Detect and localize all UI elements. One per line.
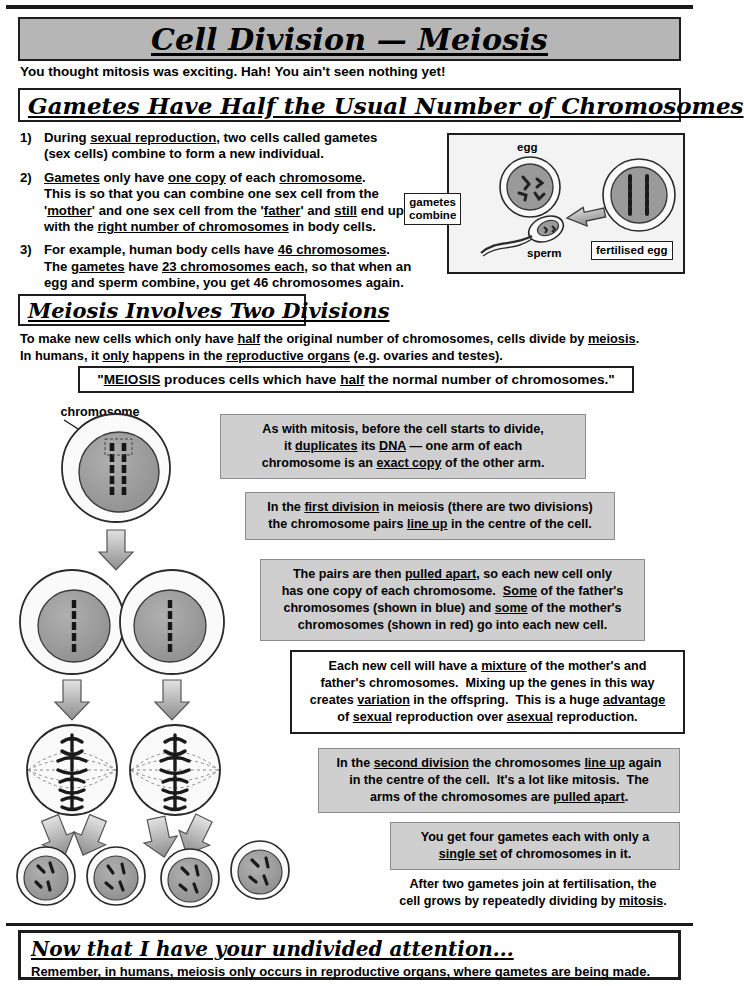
gamete-cell-4: [231, 841, 289, 899]
meiosis-quote: "MEIOSIS produces cells which have half …: [97, 372, 615, 387]
intro-paragraph: To make new cells which only have half t…: [20, 331, 685, 364]
gamete-cell-3: [161, 849, 219, 907]
gametes-combine-line1: gametes: [409, 196, 456, 208]
numbered-list: 1) During sexual reproduction, two cells…: [20, 130, 450, 299]
callout-second-division: In the second division the chromosomes l…: [318, 748, 680, 813]
top-rule: [6, 5, 693, 9]
fertilised-egg-cell: [603, 159, 675, 231]
list-item: 1) During sexual reproduction, two cells…: [20, 130, 450, 163]
page-title: Cell Division — Meiosis: [151, 22, 548, 57]
list-item-number: 2): [20, 170, 44, 236]
callout-first-division: In the first division in meiosis (there …: [245, 492, 615, 540]
callout-pulled-apart: The pairs are then pulled apart, so each…: [260, 559, 645, 641]
callout-duplication: As with mitosis, before the cell starts …: [220, 414, 586, 479]
page-title-box: Cell Division — Meiosis: [18, 17, 681, 61]
division-arrow-2-right: [155, 680, 189, 720]
second-division-cell-left: [27, 725, 117, 815]
list-item-text: Gametes only have one copy of each chrom…: [44, 170, 450, 236]
callout-after-fertilisation: After two gametes join at fertilisation,…: [378, 876, 688, 910]
list-item-text: For example, human body cells have 46 ch…: [44, 242, 450, 291]
section-heading-gametes-text: Gametes Have Half the Usual Number of Ch…: [28, 92, 744, 119]
first-division-cells: [20, 567, 224, 674]
gamete-cell-2: [87, 847, 145, 905]
footer-text: Remember, in humans, meiosis only occurs…: [31, 964, 668, 979]
list-item-text: During sexual reproduction, two cells ca…: [44, 130, 450, 163]
list-item-number: 1): [20, 130, 44, 163]
second-division-cell-right: [130, 725, 220, 815]
bottom-rule: [6, 923, 693, 926]
gametes-combine-line2: combine: [409, 209, 456, 221]
footer-box: Now that I have your undivided attention…: [18, 930, 681, 980]
list-item-number: 3): [20, 242, 44, 291]
section-heading-gametes: Gametes Have Half the Usual Number of Ch…: [18, 88, 681, 122]
division-arrow-1: [99, 530, 133, 570]
egg-label: egg: [517, 141, 537, 153]
intro-line: You thought mitosis was exciting. Hah! Y…: [20, 64, 446, 79]
sperm-label: sperm: [527, 247, 562, 259]
callout-four-gametes: You get four gametes each with only a si…: [390, 822, 680, 870]
gametes-combine-label: gametes combine: [404, 193, 461, 225]
parent-cell: [62, 414, 170, 522]
egg-cell: [500, 157, 560, 217]
list-item: 3) For example, human body cells have 46…: [20, 242, 450, 291]
list-item: 2) Gametes only have one copy of each ch…: [20, 170, 450, 236]
footer-heading: Now that I have your undivided attention…: [31, 937, 668, 961]
division-arrow-2-left: [55, 680, 89, 720]
section-heading-divisions-text: Meiosis Involves Two Divisions: [28, 298, 389, 323]
gamete-cell-1: [17, 847, 75, 905]
fertilised-egg-label: fertilised egg: [591, 241, 673, 260]
callout-mixture: Each new cell will have a mixture of the…: [290, 650, 685, 734]
meiosis-quote-box: "MEIOSIS produces cells which have half …: [78, 366, 634, 393]
section-heading-divisions: Meiosis Involves Two Divisions: [18, 294, 306, 326]
fertilisation-figure: egg sperm gametes combine fertilised egg: [447, 133, 685, 274]
